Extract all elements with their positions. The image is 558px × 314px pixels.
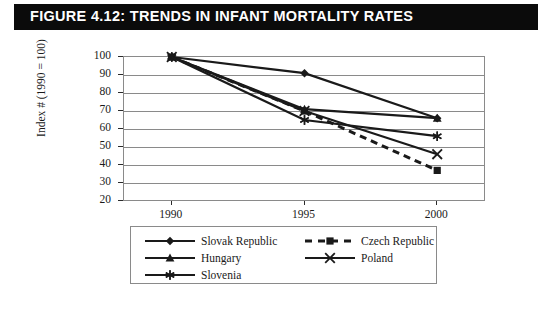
legend-label: Poland xyxy=(361,251,393,265)
legend-label: Slovak Republic xyxy=(201,234,277,248)
y-tick-label: 100 xyxy=(81,50,111,61)
legend-label: Czech Republic xyxy=(361,234,434,248)
figure-container: FIGURE 4.12: TRENDS IN INFANT MORTALITY … xyxy=(0,0,558,314)
figure-caption-text: FIGURE 4.12: TRENDS IN INFANT MORTALITY … xyxy=(30,8,413,24)
legend-label: Slovenia xyxy=(201,268,241,282)
legend-swatch-triangle-icon xyxy=(143,250,197,266)
diamond-marker xyxy=(166,237,174,245)
x-tick-label: 1995 xyxy=(274,208,334,220)
plot-area xyxy=(123,56,485,201)
x-tick-label: 2000 xyxy=(406,208,466,220)
series-lines xyxy=(124,57,486,202)
y-tick-label: 30 xyxy=(81,176,111,187)
x-tick-label: 1990 xyxy=(141,208,201,220)
y-axis-title: Index # (1990 = 100) xyxy=(35,13,47,163)
square-marker xyxy=(434,167,441,174)
legend-swatch-cross-icon xyxy=(303,250,357,266)
square-marker xyxy=(326,237,333,244)
diamond-marker xyxy=(300,69,308,77)
legend-label: Hungary xyxy=(201,251,241,265)
y-tick-label: 40 xyxy=(81,158,111,169)
figure-caption-bar: FIGURE 4.12: TRENDS IN INFANT MORTALITY … xyxy=(14,4,538,30)
y-tick-label: 70 xyxy=(81,104,111,115)
legend-swatch-square-icon xyxy=(303,233,357,249)
chart-stage: Index # (1990 = 100) 1009080706050403020… xyxy=(14,30,538,300)
y-tick-label: 90 xyxy=(81,68,111,79)
legend-swatch-asterisk-icon xyxy=(143,267,197,283)
legend-swatch-diamond-icon xyxy=(143,233,197,249)
chart-legend: Slovak RepublicCzech RepublicHungaryPola… xyxy=(130,226,437,284)
y-tick-label: 80 xyxy=(81,86,111,97)
y-tick-label: 60 xyxy=(81,122,111,133)
y-tick-label: 50 xyxy=(81,140,111,151)
y-tick-label: 20 xyxy=(81,194,111,205)
